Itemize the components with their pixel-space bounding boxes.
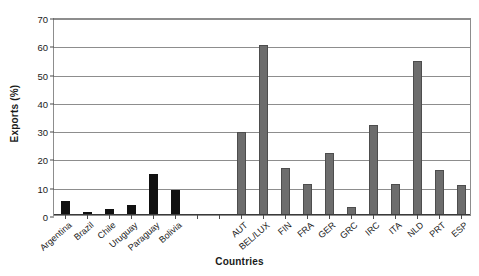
x-label-text: ITA [387,220,404,236]
bar-fra [303,184,312,215]
x-tick-mark-Argentina [65,215,66,219]
y-tick-label-30: 30 [37,127,48,138]
bar-esp [457,185,466,215]
y-tick-label-20: 20 [37,155,48,166]
x-tick-mark-ITA [395,215,396,219]
bar-chart: Exports (%) 010203040506070 ArgentinaBra… [0,0,479,276]
x-label-text: IRC [363,220,381,238]
x-label-text: FIN [276,220,294,237]
bars-layer [54,19,470,215]
x-tick-mark-FRA [307,215,308,219]
bar-irc [369,125,378,216]
y-tick-label-70: 70 [37,14,48,25]
y-tick-label-50: 50 [37,70,48,81]
x-label-text: Argentina [38,220,74,253]
bar-prt [435,170,444,215]
bar-argentina [61,201,70,215]
bar-nld [413,61,422,215]
y-tick-label-0: 0 [43,212,48,223]
bar-ita [391,184,400,215]
x-tick-mark-AUT [241,215,242,219]
bar-aut [237,132,246,215]
y-axis-title: Exports (%) [9,54,20,174]
x-tick-mark-slot-7 [219,215,220,219]
y-tick-label-40: 40 [37,98,48,109]
y-tick-mark-0 [50,217,54,218]
bar-bel-lux [259,45,268,215]
x-tick-mark-NLD [417,215,418,219]
bar-ger [325,153,334,215]
x-axis-title: Countries [0,256,479,267]
y-tick-label-60: 60 [37,42,48,53]
y-tick-label-10: 10 [37,183,48,194]
plot-area: 010203040506070 [53,18,471,216]
